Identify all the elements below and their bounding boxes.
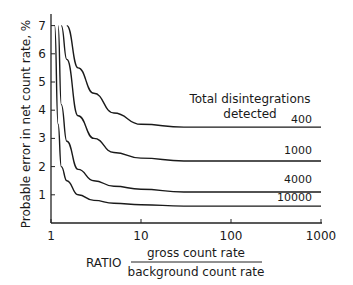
x-tick-label: 1 (47, 229, 55, 243)
x-tick-label: 100 (220, 229, 243, 243)
legend-title-line1: Total disintegrations (188, 92, 310, 106)
y-tick-label: 4 (38, 103, 46, 117)
legend-title-line2: detected (223, 107, 276, 121)
y-tick-label: 5 (38, 75, 46, 89)
series-label: 400 (291, 113, 312, 126)
x-tick-label: 10 (133, 229, 148, 243)
curve-4000 (58, 26, 321, 192)
y-tick-label: 2 (38, 160, 46, 174)
x-label-denominator: background count rate (128, 265, 265, 279)
y-ticks: 1234567 (38, 19, 55, 202)
series-label: 10000 (277, 191, 312, 204)
x-tick-label: 1000 (306, 229, 337, 243)
series-label: 4000 (284, 173, 312, 186)
series-label: 1000 (284, 144, 312, 157)
y-tick-label: 3 (38, 131, 46, 145)
curves (55, 26, 321, 207)
curve-400 (67, 26, 321, 128)
y-tick-label: 7 (38, 19, 46, 33)
curve-10000 (55, 26, 321, 207)
y-tick-label: 1 (38, 188, 46, 202)
x-label-prefix: RATIO (86, 256, 121, 270)
x-label-numerator: gross count rate (147, 246, 245, 260)
y-axis-label: Probable error in net count rate, % (19, 20, 33, 228)
chart: 1234567 1101001000 4001000400010000 Tota… (0, 0, 353, 285)
y-tick-label: 6 (38, 47, 46, 61)
